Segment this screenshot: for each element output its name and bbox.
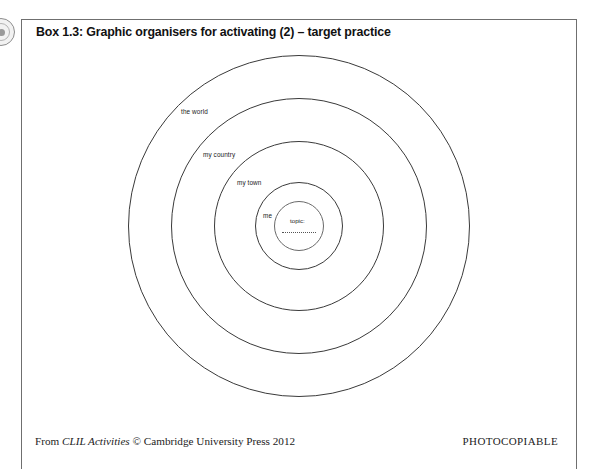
ring-label-me: me: [263, 212, 272, 219]
ring-label-my-country: my country: [203, 151, 235, 158]
ring-label-the-world: the world: [181, 108, 208, 115]
footer-suffix: © Cambridge University Press 2012: [130, 435, 295, 447]
topic-label: topic:: [290, 217, 305, 224]
ring-label-my-town: my town: [237, 179, 262, 186]
footer-prefix: From: [35, 435, 62, 447]
target-diagram: the world my country my town me topic:: [22, 20, 578, 420]
worksheet-box: Box 1.3: Graphic organisers for activati…: [21, 19, 577, 469]
footer-source-title: CLIL Activities: [62, 435, 130, 447]
photocopiable-notice: PHOTOCOPIABLE: [463, 435, 558, 447]
footer-credit: From CLIL Activities © Cambridge Univers…: [35, 435, 295, 447]
ring-topic-center: [274, 201, 324, 251]
topic-write-in-line[interactable]: [282, 232, 316, 233]
